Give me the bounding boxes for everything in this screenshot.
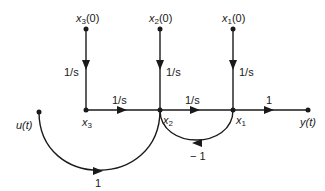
arrow-icon: [156, 60, 164, 70]
gain-x1-y: 1: [266, 94, 272, 106]
gain-x3-x2: 1/s: [112, 94, 127, 106]
arrow-icon: [117, 106, 127, 114]
node-x1: [231, 108, 236, 113]
gain-u-x2: 1: [95, 177, 101, 189]
node-x2: [158, 108, 163, 113]
gain-x2init-x2: 1/s: [166, 66, 181, 78]
label-x3-init: x3(0): [75, 12, 99, 26]
arrow-icon: [264, 106, 274, 114]
label-y: y(t): [299, 116, 316, 128]
arrow-icon: [93, 167, 103, 175]
arrow-icon: [190, 106, 200, 114]
arrow-icon: [229, 60, 237, 70]
label-x1: x1: [235, 114, 247, 128]
gain-feedback: − 1: [190, 150, 206, 162]
node-y: [306, 108, 311, 113]
arrow-icon: [82, 60, 90, 70]
gain-x1init-x1: 1/s: [239, 66, 254, 78]
node-x3: [84, 108, 89, 113]
node-x3-init: [84, 27, 89, 32]
edge-u-x2: [39, 110, 160, 170]
node-x2-init: [158, 27, 163, 32]
node-x1-init: [231, 27, 236, 32]
label-u: u(t): [16, 119, 33, 131]
label-x2-init: x2(0): [148, 12, 172, 26]
gain-x3init-x3: 1/s: [64, 66, 79, 78]
signal-flow-graph: x3(0) x2(0) x1(0) 1/s 1/s 1/s 1/s 1/s 1 …: [0, 0, 325, 191]
label-x3: x3: [81, 116, 93, 130]
label-x1-init: x1(0): [221, 12, 245, 26]
label-x2: x2: [162, 114, 174, 128]
gain-x2-x1: 1/s: [185, 94, 200, 106]
node-u: [37, 110, 42, 115]
